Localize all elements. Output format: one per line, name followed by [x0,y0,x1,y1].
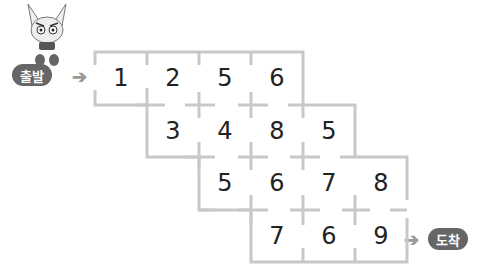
maze-cell: 5 [303,105,355,157]
maze-cell: 8 [355,157,407,209]
maze-cell: 9 [355,210,407,262]
maze-cell: 7 [251,210,303,262]
maze-cell: 7 [303,157,355,209]
maze-cell: 3 [147,105,199,157]
maze-cell: 6 [251,52,303,104]
maze-cell: 5 [199,52,251,104]
maze-cell: 8 [251,105,303,157]
maze-cell: 4 [199,105,251,157]
maze-cell: 1 [95,52,147,104]
maze-puzzle: 출발 ➔ 도착 ➔ 125634855678769 [0,0,492,279]
maze-cell: 5 [199,157,251,209]
maze-cell: 6 [303,210,355,262]
maze-cell: 6 [251,157,303,209]
maze-cell: 2 [147,52,199,104]
